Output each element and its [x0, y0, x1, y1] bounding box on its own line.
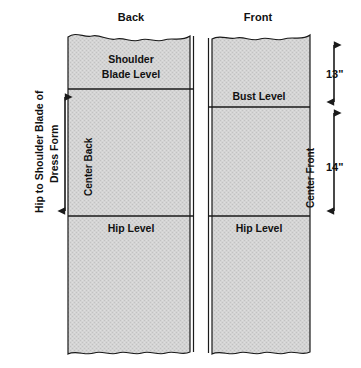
- front-panel: [209, 35, 311, 354]
- heading-back: Back: [105, 11, 157, 23]
- center-back-label: Center Back: [83, 138, 94, 196]
- shoulder-blade-level-label-line2: Blade Level: [70, 68, 192, 81]
- front-panel-fabric: [212, 35, 310, 354]
- dimension-value-top-to-bust: 13": [326, 68, 343, 80]
- back-hip-level-label: Hip Level: [70, 222, 192, 235]
- pattern-measurement-diagram: Back Front Shoulder Blade Level Hip Leve…: [0, 0, 361, 368]
- front-hip-level-label: Hip Level: [210, 222, 308, 235]
- heading-front: Front: [232, 11, 284, 23]
- bust-level-label: Bust Level: [210, 90, 308, 103]
- center-front-label: Center Front: [305, 148, 316, 208]
- hip-to-shoulder-blade-label-line2: Dress Form: [48, 125, 61, 183]
- hip-to-shoulder-blade-label-line1: Hip to Shoulder Blade of: [33, 91, 46, 214]
- dimension-value-bust-to-hip: 14": [326, 161, 343, 173]
- shoulder-blade-level-label-line1: Shoulder: [70, 53, 192, 66]
